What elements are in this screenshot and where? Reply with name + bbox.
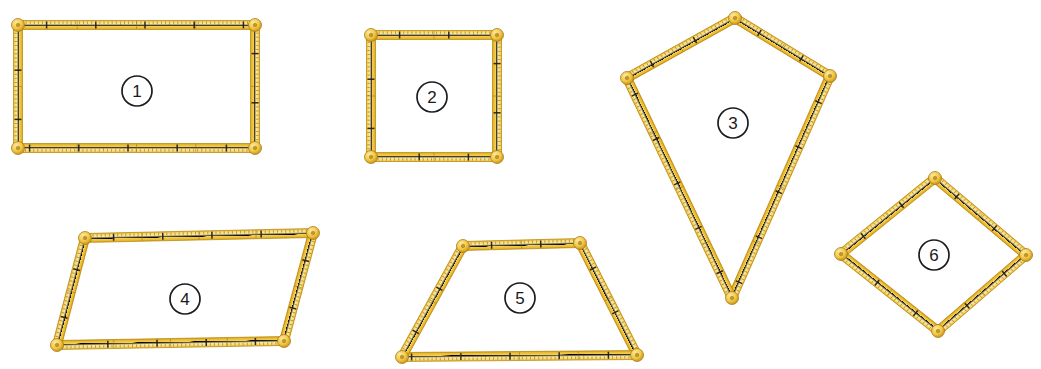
ruler-edge: [80, 228, 317, 242]
ruler-joint: [365, 151, 378, 164]
ruler-edge: [397, 350, 641, 361]
ruler-edge: [574, 237, 643, 361]
ruler-joint: [51, 339, 64, 352]
ruler-edge: [396, 240, 469, 363]
ruler-edge: [726, 70, 836, 304]
shape-kite: [621, 12, 837, 305]
ruler-edge: [367, 153, 502, 162]
ruler-joint: [79, 232, 92, 245]
ruler-joint: [929, 172, 942, 185]
ruler-joint: [491, 29, 504, 42]
shape-label-text: 1: [132, 82, 141, 101]
ruler-edge: [251, 21, 260, 153]
shape-label-text: 3: [728, 114, 737, 133]
ruler-edge: [14, 21, 23, 153]
ruler-edge: [367, 31, 502, 40]
shape-label-text: 6: [929, 246, 938, 265]
ruler-joint: [835, 248, 848, 261]
ruler-joint: [457, 240, 470, 253]
shape-labels-group: 123456: [122, 76, 949, 314]
ruler-edge: [458, 238, 584, 250]
ruler-joint: [621, 72, 634, 85]
ruler-joint: [932, 325, 945, 338]
ruler-edge: [621, 12, 741, 84]
ruler-edge: [729, 12, 836, 82]
ruler-joint: [824, 70, 837, 83]
ruler-edge: [52, 233, 91, 351]
ruler-joint: [365, 29, 378, 42]
shape-label-2: 2: [417, 82, 447, 112]
ruler-edge: [14, 21, 260, 30]
ruler-joint: [249, 142, 262, 155]
shape-label-text: 4: [180, 290, 189, 309]
ruler-edge: [14, 144, 260, 153]
ruler-joint: [12, 142, 25, 155]
shapes-canvas: 123456: [0, 0, 1041, 369]
shape-label-1: 1: [122, 76, 152, 106]
shape-label-5: 5: [505, 283, 535, 313]
ruler-joint: [307, 227, 320, 240]
shape-label-text: 5: [515, 289, 524, 308]
ruler-joint: [726, 292, 739, 305]
ruler-edge: [493, 31, 502, 162]
ruler-edge: [278, 227, 318, 346]
ruler-joint: [249, 19, 262, 32]
ruler-joint: [1020, 249, 1033, 262]
ruler-joint: [278, 335, 291, 348]
geometry-worksheet: 123456: [0, 0, 1041, 369]
ruler-joint: [729, 12, 742, 25]
ruler-joint: [396, 351, 409, 364]
ruler-joint: [631, 349, 644, 362]
ruler-edge: [367, 31, 376, 162]
ruler-edge: [621, 72, 738, 304]
shape-label-3: 3: [718, 108, 748, 138]
ruler-edge: [52, 336, 288, 349]
ruler-joint: [491, 151, 504, 164]
shape-label-text: 2: [427, 88, 436, 107]
ruler-joint: [574, 237, 587, 250]
shape-label-4: 4: [170, 284, 200, 314]
ruler-joint: [12, 19, 25, 32]
shape-label-6: 6: [919, 240, 949, 270]
